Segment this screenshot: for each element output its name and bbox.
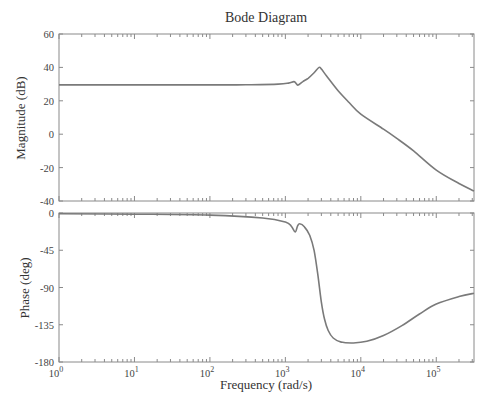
y-tick-label: 0 — [49, 129, 54, 140]
phase-curve — [59, 214, 474, 343]
y-tick-label: 0 — [49, 208, 54, 219]
x-tick-label: 104 — [351, 365, 366, 379]
magnitude-y-tick-labels: 6040200-20-40 — [40, 29, 54, 207]
magnitude-panel: 6040200-20-40 Magnitude (dB) — [13, 29, 474, 207]
x-tick-label: 102 — [200, 365, 215, 379]
chart-title: Bode Diagram — [225, 10, 307, 25]
y-tick-label: -90 — [40, 283, 54, 294]
y-tick-label: -135 — [35, 320, 54, 331]
phase-axes-box — [59, 213, 474, 362]
y-tick-label: -20 — [40, 163, 54, 174]
y-tick-label: 40 — [44, 62, 55, 73]
y-tick-label: 20 — [44, 96, 55, 107]
bode-diagram-chart: Bode Diagram 6040200-20-40 Magnitude (dB… — [0, 0, 493, 410]
magnitude-axes-box — [59, 34, 474, 201]
y-tick-label: -45 — [40, 245, 54, 256]
phase-panel: 0-45-90-135-180 Phase (deg) — [17, 208, 474, 368]
x-tick-label: 105 — [426, 365, 441, 379]
phase-y-tick-labels: 0-45-90-135-180 — [35, 208, 54, 368]
x-tick-label: 100 — [49, 365, 64, 379]
x-tick-label: 101 — [124, 365, 139, 379]
magnitude-curve — [59, 67, 474, 191]
magnitude-ticks — [59, 34, 474, 201]
y-tick-label: -180 — [35, 357, 54, 368]
y-tick-label: 60 — [44, 29, 55, 40]
phase-y-label: Phase (deg) — [17, 257, 32, 318]
x-axis-label: Frequency (rad/s) — [220, 377, 312, 392]
phase-ticks — [59, 213, 474, 362]
magnitude-y-label: Magnitude (dB) — [13, 76, 28, 159]
y-tick-label: -40 — [40, 196, 54, 207]
